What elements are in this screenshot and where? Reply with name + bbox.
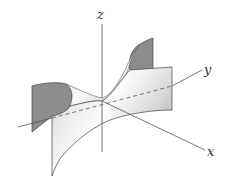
saddle-front-surface [52, 67, 172, 176]
z-axis-label: z [96, 7, 104, 22]
x-axis-label: x [207, 144, 215, 159]
saddle-surface-diagram: z y x [0, 0, 226, 192]
y-axis-right [172, 70, 202, 86]
y-axis-label: y [203, 62, 212, 77]
